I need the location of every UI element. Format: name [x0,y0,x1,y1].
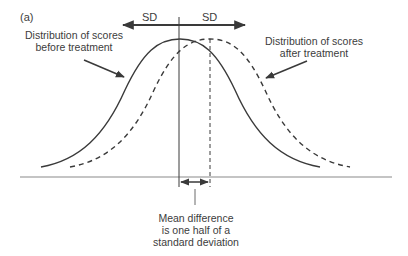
before-label-line-1: Distribution of scores [22,29,126,41]
mean-label-line-2: is one half of a [144,224,248,236]
sd-right-label: SD [202,11,217,23]
mean-label-line-3: standard deviation [144,236,248,248]
mean-difference-label: Mean difference is one half of a standar… [144,212,248,248]
after-pointer-arrow [266,61,307,78]
before-pointer-arrow [84,60,124,77]
after-label-line-2: after treatment [262,47,366,59]
before-treatment-label: Distribution of scores before treatment [22,29,126,53]
before-label-line-2: before treatment [22,41,126,53]
sd-left-label: SD [142,11,157,23]
mean-label-line-1: Mean difference [144,212,248,224]
after-treatment-label: Distribution of scores after treatment [262,35,366,59]
after-label-line-1: Distribution of scores [262,35,366,47]
panel-label: (a) [20,11,33,23]
